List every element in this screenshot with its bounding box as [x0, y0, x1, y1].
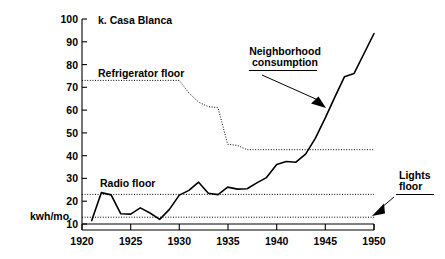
- x-tick-label-1945: 1945: [314, 235, 338, 247]
- y-tick-label-100: 100: [60, 13, 78, 25]
- neighborhood-consumption-leader: [262, 75, 318, 100]
- y-tick-label-30: 30: [66, 172, 78, 184]
- refrigerator-floor-line: [82, 80, 374, 149]
- refrigerator-floor-label: Refrigerator floor: [98, 67, 184, 79]
- x-tick-label-1925: 1925: [119, 235, 143, 247]
- neighborhood-consumption-annotation: Neighborhood consumption: [249, 45, 326, 108]
- y-tick-label-80: 80: [66, 59, 78, 71]
- lights-floor-annotation: Lights floor: [372, 169, 434, 216]
- y-tick-labels: 100 90 80 70 60 50 40 30 20 10: [60, 13, 78, 230]
- y-tick-label-70: 70: [66, 81, 78, 93]
- y-tick-label-60: 60: [66, 104, 78, 116]
- lights-floor-label-line2: floor: [399, 180, 422, 192]
- x-tick-label-1940: 1940: [265, 235, 289, 247]
- x-tick-marks: [82, 224, 374, 230]
- chart-title: k. Casa Blanca: [98, 14, 172, 26]
- y-tick-label-20: 20: [66, 195, 78, 207]
- chart-figure: 100 90 80 70 60 50 40 30 20 10 1920 1925…: [0, 0, 445, 259]
- y-tick-label-50: 50: [66, 127, 78, 139]
- x-tick-labels: 1920 1925 1930 1935 1940 1945 1950: [70, 235, 386, 247]
- axes: [82, 19, 374, 230]
- neighborhood-consumption-label-line2: consumption: [252, 56, 318, 68]
- y-tick-label-90: 90: [66, 36, 78, 48]
- x-tick-label-1920: 1920: [70, 235, 94, 247]
- chart-canvas: 100 90 80 70 60 50 40 30 20 10 1920 1925…: [0, 0, 445, 259]
- x-tick-label-1930: 1930: [168, 235, 192, 247]
- x-tick-label-1935: 1935: [216, 235, 240, 247]
- neighborhood-consumption-line: [92, 34, 374, 221]
- y-tick-label-40: 40: [66, 150, 78, 162]
- radio-floor-label: Radio floor: [100, 177, 155, 189]
- lights-floor-arrowhead: [372, 204, 385, 217]
- y-tick-marks: [82, 19, 87, 224]
- x-tick-label-1950: 1950: [362, 235, 386, 247]
- y-axis-unit-label: kwh/mo.: [30, 210, 72, 222]
